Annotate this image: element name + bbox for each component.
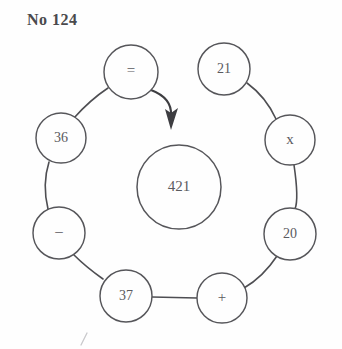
ring-node-plus: + bbox=[197, 273, 247, 323]
ring-node-label: – bbox=[54, 223, 63, 239]
puzzle-page: No 124 421 = bbox=[0, 0, 342, 349]
scan-artifact-mark bbox=[81, 333, 87, 345]
inward-arrow bbox=[151, 90, 178, 130]
connector-37-to-minus bbox=[74, 255, 103, 279]
connector-20-to-plus bbox=[244, 256, 277, 288]
connector-21-to-times bbox=[247, 83, 276, 119]
ring-node-label: 36 bbox=[54, 130, 68, 145]
ring-node-label: 20 bbox=[283, 226, 297, 241]
ring-node-label: x bbox=[286, 131, 294, 147]
ring-node-label: 37 bbox=[119, 288, 133, 303]
ring-node-label: 21 bbox=[217, 61, 231, 76]
ring-node-20: 20 bbox=[264, 208, 316, 260]
connector-times-to-20 bbox=[294, 165, 297, 209]
center-node-label: 421 bbox=[168, 178, 191, 194]
ring-node-21: 21 bbox=[198, 43, 250, 95]
ring-node-36: 36 bbox=[36, 113, 86, 163]
center-node: 421 bbox=[137, 145, 221, 229]
ring-node-37: 37 bbox=[100, 270, 152, 322]
circular-puzzle-diagram: 421 = 21 x 20 + 37 – bbox=[0, 0, 342, 349]
connector-plus-to-37 bbox=[152, 297, 197, 298]
ring-node-times: x bbox=[265, 115, 315, 165]
ring-node-equals: = bbox=[104, 45, 158, 99]
connector-minus-to-36 bbox=[45, 162, 49, 209]
ring-node-minus: – bbox=[33, 207, 85, 259]
ring-node-label: = bbox=[127, 62, 135, 78]
ring-node-label: + bbox=[218, 289, 226, 305]
connector-36-to-equals bbox=[74, 88, 108, 118]
